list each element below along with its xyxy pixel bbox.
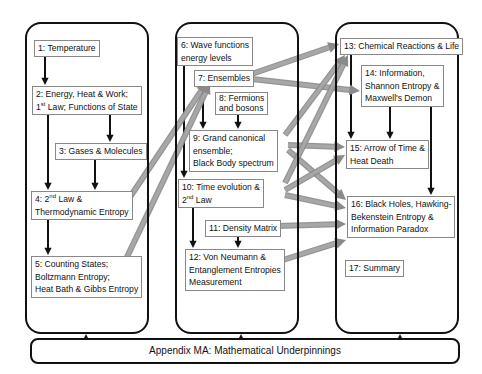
node-text-line: and bosons [219, 104, 264, 114]
node-text-line: 15: Arrow of Time & [350, 142, 425, 155]
node-text-line: energy levels [181, 52, 249, 65]
node-text-line: 17: Summary [349, 262, 400, 275]
node-2-energy-heat-work[interactable]: 2: Energy, Heat & Work;1st Law; Function… [32, 86, 142, 115]
node-3-gases-molecules[interactable]: 3: Gases & Molecules [55, 143, 147, 160]
node-text-line: Entanglement Entropies [189, 264, 281, 277]
node-text-line: 11: Density Matrix [209, 222, 277, 235]
node-text-line: Thermodynamic Entropy [35, 206, 129, 219]
node-text-line: ensemble; [193, 145, 274, 158]
node-6-wave-functions[interactable]: 6: Wave functionsenergy levels [177, 37, 253, 66]
node-text-line: 16: Black Holes, Hawking- [351, 198, 451, 211]
node-text-line: 7: Ensembles [198, 72, 250, 85]
node-text-line: 5: Counting States; [35, 258, 138, 271]
node-text-line: 10: Time evolution & [182, 181, 260, 194]
node-12-von-neumann[interactable]: 12: Von Neumann &Entanglement EntropiesM… [185, 249, 285, 291]
node-text-line: 6: Wave functions [181, 39, 249, 52]
node-text-line: 2: Energy, Heat & Work; [36, 88, 138, 101]
node-text-line: Measurement [189, 276, 281, 289]
node-17-summary[interactable]: 17: Summary [345, 260, 404, 277]
node-text-line: 12: Von Neumann & [189, 251, 281, 264]
node-text-line: 14: Information, [365, 67, 440, 80]
node-10-time-evolution[interactable]: 10: Time evolution &2nd Law [178, 179, 264, 208]
node-11-density-matrix[interactable]: 11: Density Matrix [205, 220, 281, 237]
node-text-line: 13: Chemical Reactions & Life [344, 40, 459, 53]
node-text-line: Maxwell's Demon [365, 92, 440, 105]
node-5-counting-states[interactable]: 5: Counting States;Boltzmann Entropy;Hea… [31, 256, 142, 298]
node-14-information[interactable]: 14: Information,Shannon Entropy &Maxwell… [361, 65, 444, 107]
appendix-label: Appendix MA: Mathematical Underpinnings [149, 345, 341, 356]
diagram: 1: Temperature 2: Energy, Heat & Work;1s… [0, 0, 482, 374]
node-8-fermions-bosons[interactable]: 8: Fermionsand bosons [215, 92, 268, 115]
node-text-line: Shannon Entropy & [365, 80, 440, 93]
node-1-temperature[interactable]: 1: Temperature [34, 40, 100, 57]
appendix-ma[interactable]: Appendix MA: Mathematical Underpinnings [30, 338, 460, 364]
node-text-line: 9: Grand canonical [193, 132, 274, 145]
node-9-grand-canonical[interactable]: 9: Grand canonicalensemble;Black Body sp… [189, 130, 278, 172]
node-text-line: 3: Gases & Molecules [59, 145, 143, 158]
node-text-line: Black Body spectrum [193, 157, 274, 170]
node-16-black-holes[interactable]: 16: Black Holes, Hawking-Bekenstein Entr… [347, 196, 455, 238]
node-text-line: Information Paradox [351, 223, 451, 236]
node-13-chemical-reactions[interactable]: 13: Chemical Reactions & Life [340, 38, 463, 55]
node-text-line: Boltzmann Entropy; [35, 271, 138, 284]
node-7-ensembles[interactable]: 7: Ensembles [194, 70, 254, 87]
node-text-line: 4: 2nd Law & [35, 193, 129, 206]
node-4-second-law[interactable]: 4: 2nd Law &Thermodynamic Entropy [31, 191, 133, 220]
node-text-line: Heat Bath & Gibbs Entropy [35, 283, 138, 296]
node-text-line: 1st Law; Functions of State [36, 101, 138, 114]
node-text-line: Heat Death [350, 155, 425, 168]
node-text-line: Bekenstein Entropy & [351, 211, 451, 224]
node-text-line: 2nd Law [182, 194, 260, 207]
node-text-line: 1: Temperature [38, 42, 96, 55]
node-15-arrow-of-time[interactable]: 15: Arrow of Time &Heat Death [346, 140, 429, 169]
